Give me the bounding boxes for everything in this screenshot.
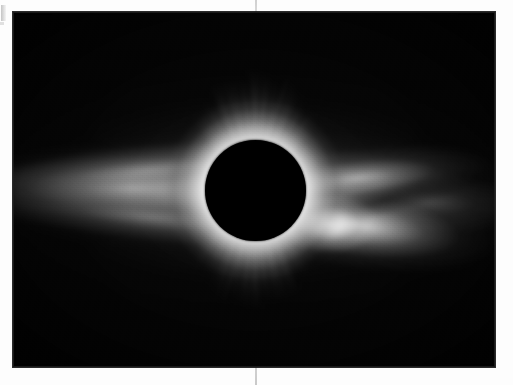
south-polar-plume bbox=[239, 237, 250, 305]
south-polar-plume bbox=[203, 229, 229, 266]
north-polar-plume bbox=[195, 112, 226, 153]
north-polar-plume bbox=[199, 108, 229, 151]
south-polar-plume bbox=[285, 226, 318, 264]
north-polar-plume bbox=[272, 87, 298, 146]
south-polar-plume bbox=[204, 231, 231, 274]
north-polar-plume bbox=[251, 67, 255, 142]
north-polar-plume bbox=[216, 81, 240, 145]
north-polar-plume bbox=[228, 78, 245, 143]
south-polar-plume bbox=[212, 234, 238, 293]
north-polar-plume bbox=[287, 124, 316, 155]
north-polar-plume bbox=[211, 98, 235, 147]
south-polar-plume bbox=[270, 235, 294, 299]
north-polar-plume bbox=[275, 94, 302, 147]
south-polar-plume bbox=[194, 228, 227, 270]
south-polar-plume bbox=[263, 237, 277, 302]
north-polar-plume bbox=[279, 107, 306, 150]
north-polar-plume bbox=[198, 129, 223, 155]
north-polar-plume bbox=[265, 83, 281, 143]
south-polar-plume bbox=[194, 224, 223, 255]
north-polar-plume bbox=[255, 69, 259, 142]
south-polar-plume bbox=[268, 236, 289, 301]
north-polar-plume bbox=[283, 110, 316, 152]
south-polar-plume bbox=[194, 226, 225, 263]
north-polar-plume bbox=[203, 104, 231, 149]
north-polar-plume bbox=[263, 79, 277, 143]
south-polar-plume bbox=[245, 238, 252, 309]
south-polar-plume bbox=[281, 229, 311, 272]
scanned-page bbox=[0, 0, 513, 385]
north-polar-plume bbox=[207, 101, 234, 148]
south-polar-plume bbox=[229, 236, 245, 296]
south-polar-plume bbox=[275, 233, 299, 282]
eclipse-photograph bbox=[13, 12, 495, 367]
south-polar-plume bbox=[272, 234, 299, 296]
south-polar-plume bbox=[221, 236, 243, 305]
north-polar-plume bbox=[270, 81, 294, 145]
south-polar-plume bbox=[216, 235, 240, 299]
south-polar-plume bbox=[283, 228, 314, 269]
north-polar-plume bbox=[222, 80, 243, 145]
south-polar-plume bbox=[234, 237, 248, 301]
scan-margin-mark-secondary bbox=[0, 22, 4, 25]
south-polar-plume bbox=[279, 231, 307, 276]
north-polar-plume bbox=[268, 76, 290, 145]
north-polar-plume bbox=[285, 117, 316, 154]
south-polar-plume bbox=[255, 238, 259, 313]
north-polar-plume bbox=[239, 78, 249, 143]
north-polar-plume bbox=[277, 100, 304, 148]
lunar-disk bbox=[205, 140, 306, 241]
south-polar-plume bbox=[206, 232, 233, 280]
south-polar-plume bbox=[251, 238, 255, 311]
south-polar-plume bbox=[265, 236, 282, 301]
north-polar-plume bbox=[192, 116, 225, 154]
north-polar-plume bbox=[233, 78, 247, 143]
south-polar-plume bbox=[258, 238, 265, 302]
north-polar-plume bbox=[245, 79, 252, 143]
north-polar-plume bbox=[211, 84, 238, 146]
south-polar-plume bbox=[277, 232, 304, 279]
north-polar-plume bbox=[281, 114, 307, 151]
south-polar-plume bbox=[260, 237, 270, 302]
scan-margin-mark bbox=[1, 5, 6, 21]
north-polar-plume bbox=[260, 75, 271, 143]
north-polar-plume bbox=[258, 72, 265, 143]
south-polar-plume bbox=[287, 224, 312, 250]
south-polar-plume bbox=[209, 233, 236, 286]
